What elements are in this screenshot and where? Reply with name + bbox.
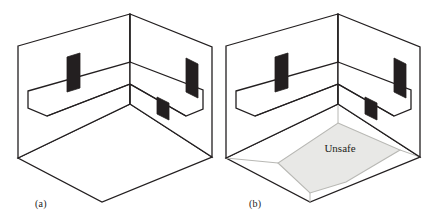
figure-a-diagram: Unsafe	[0, 0, 445, 224]
caption-b: (b)	[249, 198, 261, 209]
room-a	[18, 14, 212, 202]
opening-left-a	[67, 53, 80, 92]
opening-right-a	[186, 58, 198, 98]
caption-a: (a)	[35, 198, 47, 209]
room-b: Unsafe	[226, 14, 420, 202]
figure-panel: Unsafe (a) (b)	[0, 0, 445, 224]
opening-right-b	[394, 58, 406, 98]
unsafe-region-label: Unsafe	[324, 142, 355, 154]
opening-left-b	[275, 53, 288, 92]
